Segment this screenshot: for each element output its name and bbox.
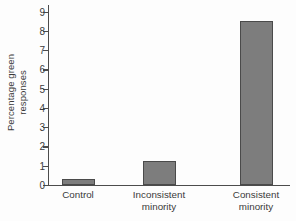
x-label-line1: Control bbox=[62, 189, 94, 200]
y-axis-title: Percentage green responses bbox=[0, 0, 34, 185]
y-tick-label: 5 bbox=[39, 83, 45, 94]
y-tick-label: 3 bbox=[39, 122, 45, 133]
x-label-consistent-minority: Consistentminority bbox=[201, 189, 296, 212]
y-tick-label: 7 bbox=[39, 45, 45, 56]
bar-inconsistent-minority bbox=[143, 161, 176, 185]
y-tick-label: 6 bbox=[39, 64, 45, 75]
x-label-line1: Inconsistent bbox=[133, 189, 185, 200]
bar-control bbox=[62, 179, 95, 185]
y-tick-label: 1 bbox=[39, 160, 45, 171]
bar-consistent-minority bbox=[240, 21, 273, 185]
y-axis-title-line2: responses bbox=[17, 54, 29, 131]
y-tick-label: 2 bbox=[39, 141, 45, 152]
x-label-line1: Consistent bbox=[233, 189, 279, 200]
y-tick-label: 4 bbox=[39, 102, 45, 113]
x-label-line2: minority bbox=[104, 201, 214, 213]
bar-chart-figure: Percentage green responses 0123456789 Co… bbox=[0, 0, 296, 221]
y-axis-line bbox=[48, 5, 49, 186]
x-axis-line bbox=[48, 185, 290, 186]
plot-area: 0123456789 ControlInconsistentminorityCo… bbox=[48, 5, 290, 186]
y-axis-title-line1: Percentage green bbox=[6, 54, 17, 131]
y-tick-label: 9 bbox=[39, 6, 45, 17]
x-label-inconsistent-minority: Inconsistentminority bbox=[104, 189, 214, 212]
x-label-line2: minority bbox=[201, 201, 296, 213]
y-tick-label: 8 bbox=[39, 25, 45, 36]
